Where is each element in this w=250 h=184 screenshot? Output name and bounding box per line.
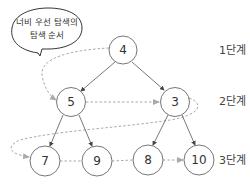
edge-5-7 (50, 115, 63, 146)
svg-text:9: 9 (93, 154, 101, 168)
callout-bubble: 너비 우선 탐색의 탐색 순서 (12, 8, 82, 56)
edge-3-10 (182, 115, 195, 145)
edge-4-5 (81, 62, 115, 91)
node-3: 3 (161, 88, 190, 117)
svg-text:3: 3 (171, 95, 179, 109)
node-9: 9 (82, 146, 112, 176)
level-label-2: 2단계 (219, 95, 246, 108)
node-4: 4 (109, 36, 137, 64)
bfs-tree-diagram: 너비 우선 탐색의 탐색 순서 4 5 3 (0, 0, 250, 184)
level-label-3: 3단계 (219, 154, 246, 167)
edge-3-8 (153, 115, 168, 145)
callout-line-1: 너비 우선 탐색의 (16, 17, 77, 27)
callout-line-2: 탐색 순서 (30, 30, 65, 40)
svg-text:4: 4 (119, 43, 127, 57)
svg-text:7: 7 (41, 154, 49, 168)
level-label-1: 1단계 (219, 44, 246, 57)
node-10: 10 (184, 145, 214, 175)
svg-text:10: 10 (191, 153, 206, 167)
node-8: 8 (133, 145, 163, 175)
edge-4-3 (132, 62, 164, 90)
svg-text:5: 5 (67, 95, 75, 109)
node-7: 7 (30, 146, 60, 176)
node-5: 5 (57, 88, 86, 117)
svg-text:8: 8 (144, 153, 152, 167)
